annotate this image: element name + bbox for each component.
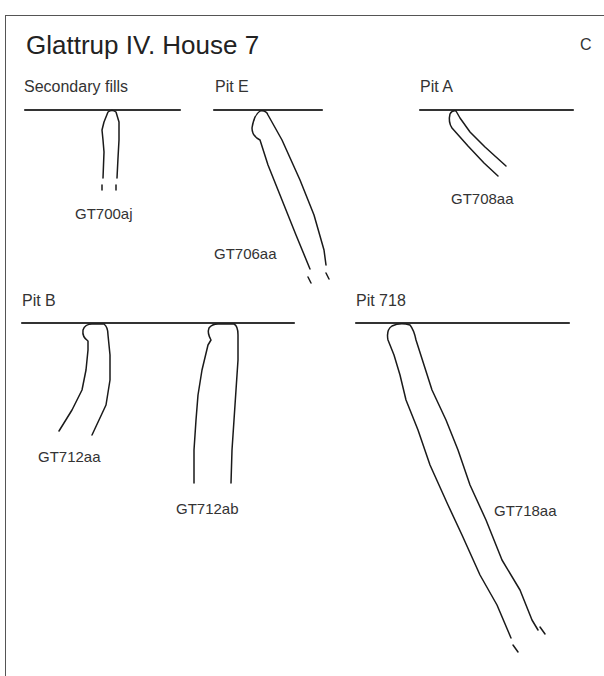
core-gt706aa [252, 111, 329, 283]
core-gt708aa [449, 111, 506, 176]
core-gt718aa [388, 324, 546, 652]
core-gt712aa [59, 324, 110, 435]
core-gt700aj [102, 111, 119, 191]
core-gt712ab [194, 324, 238, 483]
